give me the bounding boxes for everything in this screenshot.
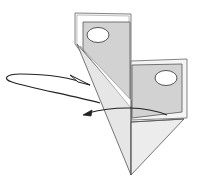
right-hole-icon xyxy=(155,71,177,86)
right-flap xyxy=(131,59,187,120)
origami-diagram xyxy=(0,0,207,184)
left-hole-icon xyxy=(87,28,109,43)
loop-arrow-icon xyxy=(6,74,100,103)
diagram-canvas xyxy=(0,0,207,184)
